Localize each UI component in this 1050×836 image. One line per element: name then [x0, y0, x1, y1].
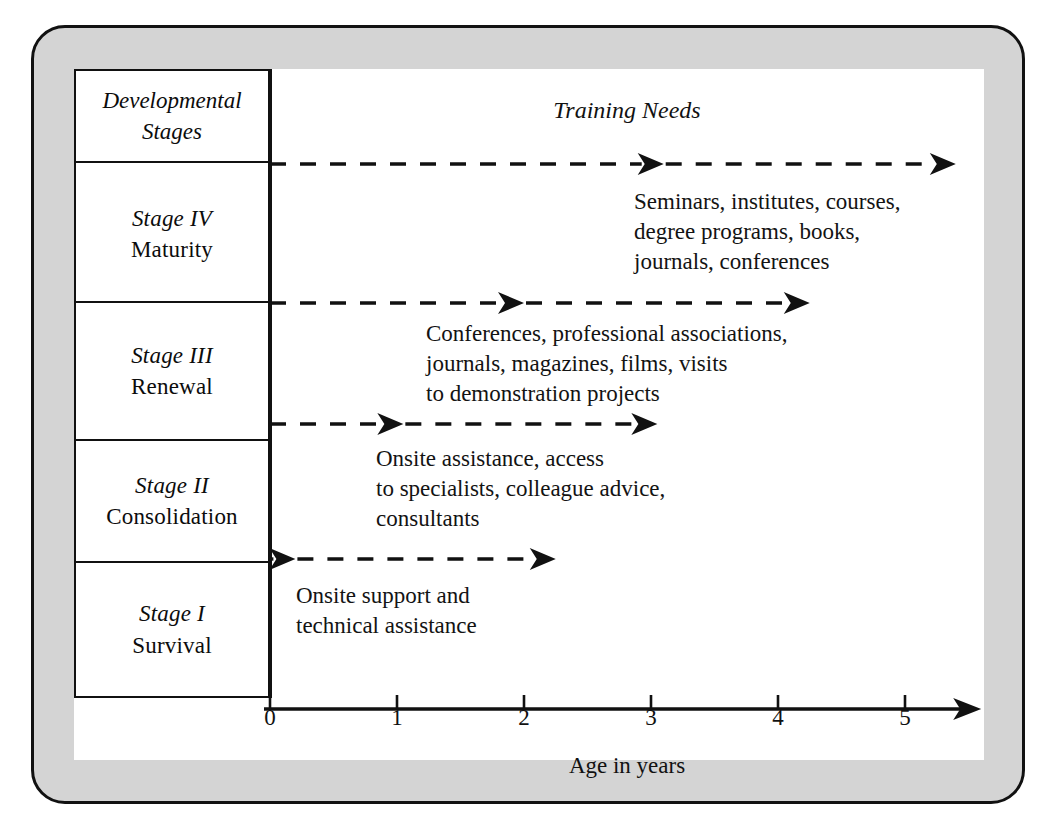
stage-4-roman: Stage IV [132, 203, 212, 234]
stage-row-stage-2: Stage II Consolidation [76, 441, 268, 563]
stage-row-stage-1: Stage I Survival [76, 563, 268, 696]
training-needs-title: Training Needs [270, 97, 984, 124]
x-tick-label-5: 5 [885, 705, 925, 731]
stage-3-roman: Stage III [131, 340, 213, 371]
needs-text-stage-3: Conferences, professional associations, … [426, 319, 846, 409]
needs-text-stage-2: Onsite assistance, access to specialists… [376, 444, 746, 534]
stage-plot-divider [270, 69, 272, 698]
needs-text-stage-4: Seminars, institutes, courses, degree pr… [634, 187, 964, 277]
stage-table-header-label: Developmental Stages [76, 85, 268, 147]
x-axis [264, 689, 984, 719]
needs-text-stage-1: Onsite support and technical assistance [296, 581, 626, 641]
figure-root: Developmental Stages Stage IV Maturity S… [0, 0, 1050, 836]
x-tick-label-1: 1 [377, 705, 417, 731]
x-tick-label-0: 0 [250, 705, 290, 731]
x-tick-label-3: 3 [631, 705, 671, 731]
x-tick-label-4: 4 [758, 705, 798, 731]
stage-2-name: Consolidation [106, 501, 238, 532]
figure-canvas: Developmental Stages Stage IV Maturity S… [74, 69, 984, 760]
stage-2-roman: Stage II [135, 470, 209, 501]
developmental-stages-table: Developmental Stages Stage IV Maturity S… [74, 69, 270, 698]
x-tick-label-2: 2 [504, 705, 544, 731]
stage-1-roman: Stage I [139, 598, 205, 629]
stage-1-name: Survival [132, 630, 212, 661]
stage-row-stage-4: Stage IV Maturity [76, 167, 268, 303]
stage-table-header: Developmental Stages [76, 71, 268, 163]
stage-row-stage-3: Stage III Renewal [76, 303, 268, 441]
x-axis-title: Age in years [270, 753, 984, 779]
stage-4-name: Maturity [131, 234, 213, 265]
stage-3-name: Renewal [131, 371, 213, 402]
